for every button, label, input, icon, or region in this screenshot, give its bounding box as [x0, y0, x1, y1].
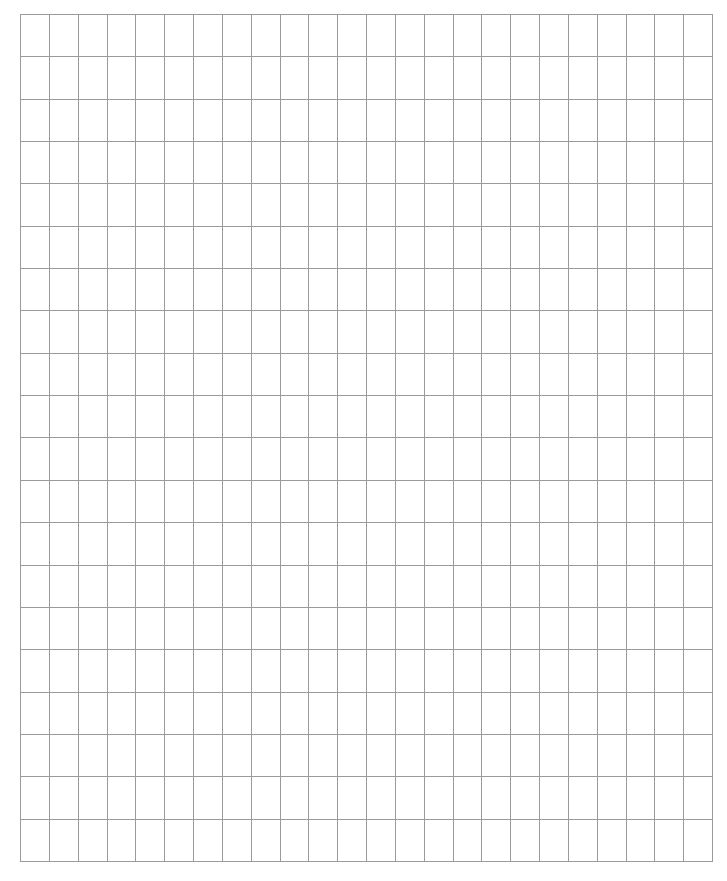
grid-cell: [337, 268, 366, 310]
grid-cell: [395, 395, 424, 437]
grid-cell: [308, 395, 337, 437]
grid-cell: [395, 99, 424, 141]
grid-cell: [222, 522, 251, 564]
grid-cell: [654, 522, 683, 564]
grid-cell: [424, 649, 453, 691]
grid-cell: [683, 819, 712, 861]
grid-cell: [539, 395, 568, 437]
grid-cell: [510, 99, 539, 141]
grid-cell: [20, 14, 49, 56]
grid-cell: [135, 437, 164, 479]
grid-cell: [193, 141, 222, 183]
grid-cell: [424, 437, 453, 479]
grid-cell: [164, 268, 193, 310]
grid-cell: [222, 14, 251, 56]
grid-cell: [481, 183, 510, 225]
grid-cell: [308, 437, 337, 479]
grid-cell: [453, 14, 482, 56]
grid-cell: [164, 649, 193, 691]
grid-cell: [337, 565, 366, 607]
grid-cell: [308, 268, 337, 310]
grid-cell: [337, 99, 366, 141]
grid-cell: [626, 395, 655, 437]
grid-cell: [308, 692, 337, 734]
grid-cell: [222, 819, 251, 861]
grid-cell: [654, 353, 683, 395]
grid-cell: [539, 692, 568, 734]
grid-cell: [135, 734, 164, 776]
grid-cell: [20, 437, 49, 479]
grid-cell: [539, 607, 568, 649]
grid-cell: [481, 437, 510, 479]
grid-cell: [135, 649, 164, 691]
grid-cell: [20, 649, 49, 691]
grid-cell: [510, 226, 539, 268]
grid-cell: [568, 692, 597, 734]
grid-cell: [366, 480, 395, 522]
grid-cell: [539, 56, 568, 98]
grid-cell: [193, 734, 222, 776]
grid-cell: [193, 565, 222, 607]
grid-cell: [539, 649, 568, 691]
grid-cell: [135, 353, 164, 395]
grid-cell: [107, 692, 136, 734]
grid-cell: [597, 14, 626, 56]
grid-cell: [654, 565, 683, 607]
grid-cell: [597, 819, 626, 861]
grid-cell: [481, 734, 510, 776]
grid-cell: [453, 226, 482, 268]
grid-cell: [308, 480, 337, 522]
grid-cell: [308, 99, 337, 141]
grid-cell: [683, 310, 712, 352]
grid-cell: [568, 734, 597, 776]
grid-cell: [308, 734, 337, 776]
grid-cell: [78, 310, 107, 352]
grid-cell: [424, 565, 453, 607]
grid-cell: [251, 776, 280, 818]
grid-cell: [539, 353, 568, 395]
grid-cell: [424, 56, 453, 98]
grid-cell: [135, 56, 164, 98]
grid-cell: [280, 99, 309, 141]
grid-cell: [49, 692, 78, 734]
grid-cell: [654, 226, 683, 268]
grid-cell: [683, 734, 712, 776]
grid-cell: [107, 649, 136, 691]
grid-cell: [539, 226, 568, 268]
grid-cell: [135, 141, 164, 183]
grid-cell: [308, 353, 337, 395]
grid-cell: [510, 522, 539, 564]
grid-cell: [107, 395, 136, 437]
grid-cell: [626, 310, 655, 352]
grid-cell: [222, 310, 251, 352]
grid-cell: [164, 734, 193, 776]
grid-cell: [395, 607, 424, 649]
grid-cell: [20, 56, 49, 98]
grid-cell: [568, 776, 597, 818]
grid-cell: [308, 649, 337, 691]
grid-cell: [20, 141, 49, 183]
grid-cell: [683, 353, 712, 395]
grid-cell: [683, 480, 712, 522]
grid-cell: [49, 353, 78, 395]
grid-cell: [453, 734, 482, 776]
grid-cell: [568, 99, 597, 141]
grid-cell: [107, 607, 136, 649]
grid-cell: [251, 141, 280, 183]
grid-cell: [280, 14, 309, 56]
grid-cell: [78, 268, 107, 310]
grid-cell: [222, 183, 251, 225]
grid-cell: [337, 353, 366, 395]
grid-cell: [107, 226, 136, 268]
grid-cell: [510, 14, 539, 56]
grid-cell: [626, 56, 655, 98]
grid-cell: [366, 226, 395, 268]
grid-cell: [568, 226, 597, 268]
grid-cell: [337, 310, 366, 352]
grid-cell: [20, 226, 49, 268]
grid-cell: [308, 183, 337, 225]
grid-cell: [49, 395, 78, 437]
grid-cell: [222, 141, 251, 183]
grid-cell: [280, 310, 309, 352]
grid-cell: [49, 56, 78, 98]
